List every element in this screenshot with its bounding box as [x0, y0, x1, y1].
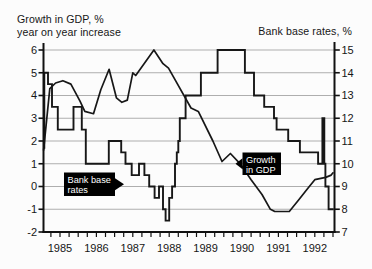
- x-axis-year-label: 1986: [84, 242, 108, 254]
- right-axis-tick-label: 7: [342, 226, 348, 238]
- bank-base-rates-label: Bank baserates: [64, 173, 124, 197]
- x-axis-year-label: 1990: [230, 242, 254, 254]
- left-axis-tick-label: -2: [27, 226, 37, 238]
- label-text-line: Growth: [246, 155, 276, 165]
- left-axis-tick-label: 1: [31, 158, 37, 170]
- label-text-line: in GDP: [246, 165, 276, 175]
- growth-in-gdp-label: Growthin GDP: [236, 153, 282, 176]
- left-axis-tick-label: 0: [31, 180, 37, 192]
- x-axis-year-label: 1988: [157, 242, 181, 254]
- right-axis-tick-label: 12: [342, 112, 354, 124]
- x-axis-year-label: 1987: [121, 242, 145, 254]
- right-axis-tick-label: 15: [342, 44, 354, 56]
- left-axis-tick-label: -1: [27, 203, 37, 215]
- right-axis-tick-label: 8: [342, 203, 348, 215]
- left-axis-tick-label: 2: [31, 135, 37, 147]
- x-axis-year-label: 1991: [266, 242, 290, 254]
- left-axis-tick-label: 3: [31, 112, 37, 124]
- right-axis-tick-label: 13: [342, 89, 354, 101]
- chart-canvas: 6543210-1-215141312111098719851986198719…: [0, 0, 372, 269]
- axis-tick-labels: 6543210-1-215141312111098719851986198719…: [27, 44, 354, 254]
- x-axis-year-label: 1985: [48, 242, 72, 254]
- right-axis-tick-label: 11: [342, 135, 353, 147]
- left-axis-tick-label: 5: [31, 67, 37, 79]
- label-text-line: Bank base: [68, 175, 111, 185]
- right-axis-tick-label: 14: [342, 67, 354, 79]
- right-axis-tick-label: 9: [342, 180, 348, 192]
- gdp-bank-rates-figure: Growth in GDP, % year on year increase B…: [0, 0, 372, 269]
- right-axis-tick-label: 10: [342, 158, 354, 170]
- label-text-line: rates: [68, 185, 89, 195]
- x-axis-year-label: 1992: [303, 242, 327, 254]
- arrow-right-icon: [115, 178, 124, 190]
- left-axis-tick-label: 4: [31, 89, 37, 101]
- left-axis-tick-label: 6: [31, 44, 37, 56]
- axes: [39, 42, 340, 237]
- x-axis-year-label: 1989: [193, 242, 217, 254]
